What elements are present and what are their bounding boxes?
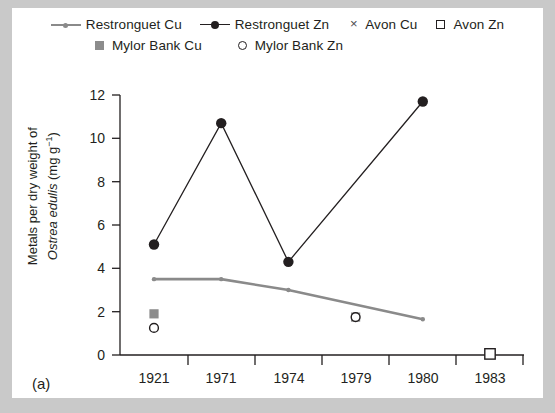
point-restronguet-cu-1980 <box>421 317 425 321</box>
y-tick-12: 12 <box>89 87 105 103</box>
figure-card: Restronguet Cu Restronguet Zn × Avon Cu <box>12 8 543 398</box>
y-axis-title-exponent: −1 <box>44 136 54 146</box>
point-restronguet-cu-1971 <box>219 277 223 281</box>
x-tick-1921: 1921 <box>138 370 169 386</box>
data-series-layer <box>149 96 495 359</box>
chart-legend: Restronguet Cu Restronguet Zn × Avon Cu <box>12 14 543 56</box>
x-tick-1974: 1974 <box>273 370 304 386</box>
y-tick-10: 10 <box>89 130 105 146</box>
line-grey-dot-icon <box>51 19 81 31</box>
y-axis-title-units-close: ) <box>45 132 60 136</box>
panel-label: (a) <box>32 375 50 392</box>
series-line-restronguet-cu <box>154 279 423 319</box>
y-axis-title-units-open: (mg g <box>45 147 60 184</box>
legend-label-restronguet-cu: Restronguet Cu <box>86 17 182 32</box>
legend-item-avon-zn: Avon Zn <box>435 17 504 32</box>
point-restronguet-zn-1974 <box>283 257 293 267</box>
legend-item-mylor-bank-cu: Mylor Bank Cu <box>94 38 202 53</box>
point-restronguet-zn-1980 <box>418 96 428 106</box>
legend-label-avon-zn: Avon Zn <box>453 17 504 32</box>
x-tick-1983: 1983 <box>474 370 505 386</box>
y-tick-8: 8 <box>97 174 105 190</box>
line-black-circle-icon <box>200 19 230 31</box>
legend-row-2: Mylor Bank Cu Mylor Bank Zn <box>12 35 543 56</box>
legend-row-1: Restronguet Cu Restronguet Zn × Avon Cu <box>12 14 543 35</box>
y-axis-title-line1: Metals per dry weight of <box>25 127 40 265</box>
point-mylor-bank-zn-1979 <box>351 313 360 322</box>
point-mylor-bank-cu-1921 <box>149 309 158 318</box>
filled-square-icon <box>94 40 107 52</box>
x-tick-1980: 1980 <box>407 370 438 386</box>
open-square-icon <box>435 19 448 31</box>
point-restronguet-zn-1921 <box>149 239 159 249</box>
open-circle-icon <box>237 40 250 52</box>
y-tick-4: 4 <box>97 260 105 276</box>
legend-label-restronguet-zn: Restronguet Zn <box>235 17 329 32</box>
y-axis-ticks <box>112 95 120 355</box>
point-restronguet-zn-1971 <box>216 118 226 128</box>
x-axis-ticks <box>188 355 523 365</box>
y-tick-0: 0 <box>97 347 105 363</box>
legend-item-restronguet-zn: Restronguet Zn <box>200 17 329 32</box>
y-axis-title-species: Ostrea edulis <box>45 184 60 261</box>
series-line-restronguet-zn <box>154 102 423 262</box>
point-restronguet-cu-1921 <box>152 277 156 281</box>
y-axis-tick-labels: 0 2 4 6 8 10 12 <box>89 87 105 363</box>
x-axis-tick-labels: 1921 1971 1974 1979 1980 1983 <box>138 370 505 386</box>
y-tick-2: 2 <box>97 304 105 320</box>
x-cross-icon: × <box>347 19 360 31</box>
figure-background: Restronguet Cu Restronguet Zn × Avon Cu <box>0 0 555 413</box>
x-tick-1971: 1971 <box>205 370 236 386</box>
plot-area: Metals per dry weight of Ostrea edulis (… <box>12 60 543 398</box>
point-avon-zn-1983 <box>485 349 495 359</box>
x-tick-1979: 1979 <box>340 370 371 386</box>
legend-item-restronguet-cu: Restronguet Cu <box>51 17 182 32</box>
legend-label-avon-cu: Avon Cu <box>365 17 417 32</box>
y-axis-title: Metals per dry weight of Ostrea edulis (… <box>25 91 61 301</box>
legend-label-mylor-bank-cu: Mylor Bank Cu <box>112 38 202 53</box>
chart-svg: 0 2 4 6 8 10 12 19 <box>12 60 543 398</box>
point-restronguet-cu-1974 <box>286 288 290 292</box>
legend-item-avon-cu: × Avon Cu <box>347 17 417 32</box>
y-tick-6: 6 <box>97 217 105 233</box>
point-mylor-bank-zn-1921 <box>150 324 159 333</box>
legend-label-mylor-bank-zn: Mylor Bank Zn <box>255 38 343 53</box>
legend-item-mylor-bank-zn: Mylor Bank Zn <box>237 38 343 53</box>
